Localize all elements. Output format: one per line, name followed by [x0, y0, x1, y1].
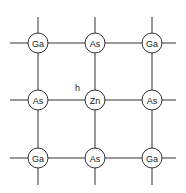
atom-as: As [85, 33, 105, 53]
atom-label: As [147, 96, 158, 106]
atom-label: Ga [146, 39, 158, 49]
atom-label: Ga [32, 39, 44, 49]
atom-as: As [28, 90, 48, 110]
atom-label: As [33, 96, 44, 106]
atom-zn: Zn [85, 90, 105, 110]
atom-label: Zn [90, 96, 101, 106]
atom-label: As [90, 154, 101, 164]
atom-ga: Ga [142, 148, 162, 168]
atom-label: As [90, 39, 101, 49]
atom-ga: Ga [28, 33, 48, 53]
atom-label: Ga [146, 154, 158, 164]
annotations: h [75, 83, 80, 93]
atom-label: Ga [32, 154, 44, 164]
atom-as: As [142, 90, 162, 110]
atom-as: As [85, 148, 105, 168]
lattice-diagram: GaAsGaAsZnAsGaAsGa h [0, 0, 186, 193]
atom-ga: Ga [28, 148, 48, 168]
atoms: GaAsGaAsZnAsGaAsGa [28, 33, 162, 168]
atom-ga: Ga [142, 33, 162, 53]
hole-label: h [75, 83, 80, 93]
